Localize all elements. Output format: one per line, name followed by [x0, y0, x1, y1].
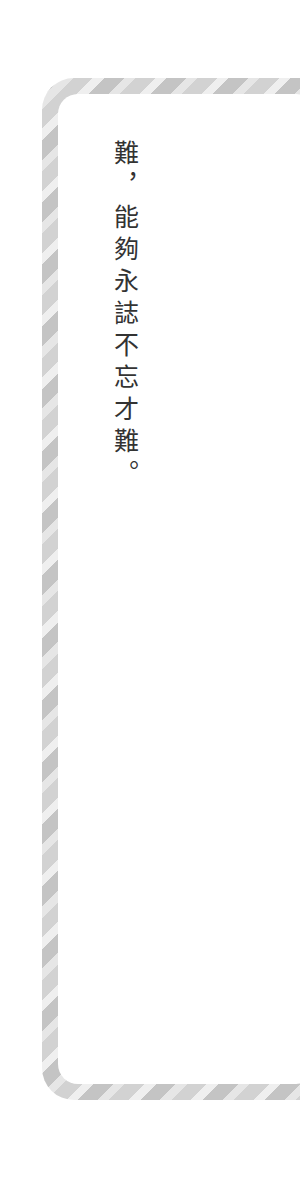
vertical-quote-text: 難，能夠永誌不忘才難。 [112, 140, 137, 492]
decorative-frame [42, 78, 300, 1100]
frame-content-area [58, 94, 300, 1084]
